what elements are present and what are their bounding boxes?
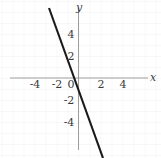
x-tick-label-neg4: -4	[30, 79, 41, 90]
x-tick-label-pos4: 4	[120, 79, 127, 90]
y-tick-label-pos2: 2	[68, 51, 75, 62]
y-tick-label-neg2: -2	[64, 95, 75, 106]
y-tick-label-pos4: 4	[68, 29, 75, 40]
x-axis-label: x	[150, 72, 156, 83]
grid-background	[0, 0, 161, 158]
y-axis-label: y	[76, 2, 82, 13]
y-tick-label-neg4: -4	[64, 117, 75, 128]
origin-label: 0	[68, 79, 75, 90]
x-tick-label-neg2: -2	[52, 79, 63, 90]
coordinate-plane-figure: -4 -2 0 2 4 4 2 -2 -4 y x	[0, 0, 161, 158]
graph-canvas	[0, 0, 161, 158]
x-tick-label-pos2: 2	[98, 79, 105, 90]
